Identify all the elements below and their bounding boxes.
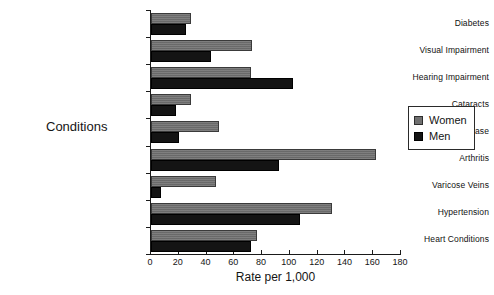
bar-women xyxy=(151,230,257,241)
x-tick xyxy=(400,250,401,255)
y-tick xyxy=(146,200,151,201)
bar-women xyxy=(151,13,191,24)
bar-women xyxy=(151,121,219,132)
x-tick-label: 100 xyxy=(281,257,296,267)
chart-legend: WomenMen xyxy=(408,106,475,150)
x-tick-label: 120 xyxy=(309,257,324,267)
y-tick xyxy=(146,37,151,38)
bar-women xyxy=(151,203,332,214)
x-axis-line xyxy=(150,254,401,255)
bar-women xyxy=(151,40,252,51)
bar-men xyxy=(151,51,211,62)
x-tick-label: 140 xyxy=(337,257,352,267)
x-tick xyxy=(317,250,318,255)
y-tick xyxy=(146,227,151,228)
x-tick-label: 20 xyxy=(173,257,183,267)
x-tick-label: 180 xyxy=(392,257,407,267)
y-tick xyxy=(146,254,151,255)
y-tick xyxy=(146,173,151,174)
category-label: Visual Impairment xyxy=(346,45,494,55)
bar-men xyxy=(151,187,161,198)
bar-men xyxy=(151,241,251,252)
category-label: Heart Conditions xyxy=(346,234,494,244)
legend-swatch-men xyxy=(414,132,423,141)
x-tick-label: 60 xyxy=(228,257,238,267)
bar-men xyxy=(151,105,176,116)
bar-women xyxy=(151,94,191,105)
category-label: Hearing Impairment xyxy=(346,72,494,82)
bar-men xyxy=(151,132,179,143)
bar-men xyxy=(151,160,279,171)
category-label: Diabetes xyxy=(346,18,494,28)
bar-men xyxy=(151,214,300,225)
bar-men xyxy=(151,24,186,35)
x-tick xyxy=(344,250,345,255)
bar-chart-figure: 020406080100120140160180 DiabetesVisual … xyxy=(0,0,494,295)
legend-swatch-women xyxy=(414,116,423,125)
category-label: Hypertension xyxy=(346,207,494,217)
category-label: Varicose Veins xyxy=(346,180,494,190)
bar-women xyxy=(151,67,251,78)
y-tick xyxy=(146,118,151,119)
y-axis-title: Conditions xyxy=(46,119,107,134)
x-tick-label: 160 xyxy=(365,257,380,267)
y-tick xyxy=(146,146,151,147)
x-tick xyxy=(261,250,262,255)
y-tick xyxy=(146,10,151,11)
legend-label: Women xyxy=(429,114,467,126)
x-tick xyxy=(289,250,290,255)
bar-women xyxy=(151,176,216,187)
legend-label: Men xyxy=(429,130,450,142)
x-tick-label: 40 xyxy=(201,257,211,267)
x-tick-label: 80 xyxy=(256,257,266,267)
x-tick xyxy=(372,250,373,255)
y-tick xyxy=(146,64,151,65)
legend-item: Men xyxy=(414,128,467,144)
bar-men xyxy=(151,78,293,89)
legend-item: Women xyxy=(414,112,467,128)
y-tick xyxy=(146,91,151,92)
x-axis-title: Rate per 1,000 xyxy=(150,270,401,284)
bar-women xyxy=(151,149,376,160)
x-tick-label: 0 xyxy=(147,257,152,267)
